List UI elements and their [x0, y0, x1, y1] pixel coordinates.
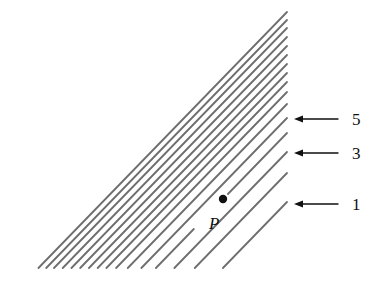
- level-labels: 531: [352, 110, 361, 214]
- level-label: 5: [352, 110, 361, 129]
- point-p-marker: [219, 195, 227, 203]
- point-p-label: P: [208, 214, 219, 233]
- level-label: 3: [352, 144, 361, 163]
- contour-line: [54, 28, 287, 268]
- level-label: 1: [352, 195, 361, 214]
- contour-line: [46, 20, 287, 268]
- arrowhead-icon: [294, 116, 303, 123]
- contour-line: [228, 133, 287, 194]
- contour-line: [174, 152, 287, 268]
- contour-line: [223, 202, 287, 268]
- level-arrows: [294, 116, 338, 208]
- contour-line: [106, 82, 287, 268]
- contour-line: [98, 73, 287, 268]
- contour-line: [89, 64, 287, 268]
- arrowhead-icon: [294, 201, 303, 208]
- contour-line: [116, 92, 287, 268]
- contour-diagram: P 531: [0, 0, 384, 282]
- contour-line: [80, 55, 287, 268]
- contour-lines: [38, 12, 287, 268]
- arrowhead-icon: [294, 150, 303, 157]
- contour-line: [156, 229, 194, 268]
- contour-line: [38, 12, 287, 268]
